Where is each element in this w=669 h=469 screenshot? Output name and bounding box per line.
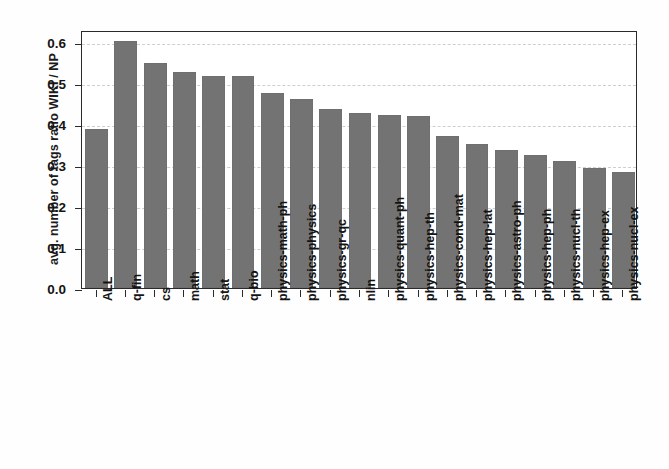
bar [202,76,225,288]
y-axis-tick [75,208,82,209]
gridline [82,44,636,45]
y-axis-tick-label: 0.1 [26,241,66,256]
bar [144,63,167,288]
x-axis-tick-label: physics-nucl-th [569,209,583,301]
y-axis-tick-label: 0.4 [26,118,66,133]
x-axis-tick [271,290,272,297]
x-axis-tick [622,290,623,297]
x-axis-tick [476,290,477,297]
y-axis-tick [75,290,82,291]
bar-chart-figure: avg. number of tags ratio WIKI / NP 0.00… [0,0,669,469]
x-axis-tick-label: physics-nucl-ex [627,207,641,301]
x-axis-tick [242,290,243,297]
x-axis-tick-label: math [188,271,202,301]
y-axis-tick [75,44,82,45]
x-axis-tick-label: nlin [364,279,378,301]
y-axis-tick [75,85,82,86]
x-axis-tick-label: physics-physics [305,204,319,301]
y-axis-tick-label: 0.5 [26,77,66,92]
x-axis-tick-label: stat [218,279,232,301]
x-axis-tick [213,290,214,297]
x-axis-tick [300,290,301,297]
x-axis-tick [359,290,360,297]
x-axis-tick-label: physics-hep-lat [481,209,495,301]
x-axis-tick-label: physics-hep-th [423,212,437,301]
bar [349,113,372,288]
x-axis-tick-label: physics-gr-qc [335,219,349,301]
x-axis-tick [154,290,155,297]
x-axis-tick [447,290,448,297]
x-axis-tick-label: q-bio [247,270,261,301]
bar [85,129,108,288]
x-axis-tick-label: physics-math-ph [276,201,290,301]
x-axis-tick [330,290,331,297]
y-axis-tick [75,249,82,250]
bar [114,41,137,288]
x-axis-tick-label: physics-hep-ph [540,209,554,301]
y-axis-tick-label: 0.6 [26,36,66,51]
x-axis-tick [388,290,389,297]
x-axis-tick [535,290,536,297]
x-axis-tick-label: physics-cond-mat [452,194,466,301]
x-axis-tick-label: ALL [101,277,115,301]
x-axis-tick-label: physics-hep-ex [598,210,612,301]
x-axis-tick [96,290,97,297]
x-axis-tick [183,290,184,297]
y-axis-tick [75,167,82,168]
x-axis-tick [125,290,126,297]
bar [173,72,196,288]
y-axis-tick-label: 0.3 [26,159,66,174]
bar [232,76,255,288]
x-axis-tick [564,290,565,297]
y-axis-tick-label: 0.0 [26,282,66,297]
x-axis-tick-label: cs [159,287,173,301]
y-axis-tick [75,126,82,127]
x-axis-tick [593,290,594,297]
x-axis-tick-label: physics-quant-ph [393,197,407,301]
x-axis-tick-label: q-fin [130,274,144,301]
x-axis-tick-label: physics-astro-ph [510,200,524,301]
x-axis-tick [418,290,419,297]
x-axis-tick [505,290,506,297]
y-axis-tick-label: 0.2 [26,200,66,215]
